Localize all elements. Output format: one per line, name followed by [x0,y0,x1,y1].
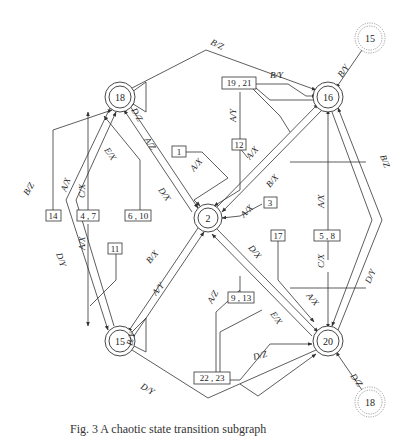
svg-text:E/X: E/X [102,145,119,163]
box-6-10: 6 , 10 [125,210,151,221]
svg-text:1: 1 [177,147,182,157]
svg-text:2: 2 [206,213,211,224]
svg-text:22 , 23: 22 , 23 [200,373,225,383]
svg-text:12: 12 [235,140,244,150]
svg-text:B/Z: B/Z [209,37,226,52]
svg-text:9 , 13: 9 , 13 [231,293,252,303]
svg-text:B/Z: B/Z [21,180,37,197]
box-1: 1 [172,146,186,157]
state-node-20[interactable]: 20 [313,326,343,356]
box-22-23: 22 , 23 [194,372,230,384]
svg-text:B/Y: B/Y [124,330,137,346]
svg-text:B/Y: B/Y [270,70,284,80]
svg-text:D/Z: D/Z [251,348,269,362]
svg-text:A/X: A/X [238,202,256,220]
svg-text:17: 17 [274,231,284,241]
box-19-21: 19 , 21 [222,77,256,89]
svg-text:3: 3 [268,198,273,208]
box-4-7: 4 , 7 [77,210,99,221]
svg-text:C/X: C/X [316,253,326,268]
svg-text:20: 20 [323,336,333,347]
svg-text:B/X: B/X [144,248,161,265]
box-17: 17 [271,230,285,241]
svg-text:11: 11 [111,244,120,254]
svg-text:5 , 8: 5 , 8 [319,231,335,241]
figure-caption: Fig. 3 A chaotic state transition subgra… [70,422,266,437]
boxes: 1 19 , 21 12 3 14 4 , 7 6 , 10 11 17 5 ,… [46,77,340,384]
svg-text:4 , 7: 4 , 7 [80,211,96,221]
svg-text:16: 16 [323,92,333,103]
box-5-8: 5 , 8 [314,230,340,241]
svg-text:A/Y: A/Y [149,280,166,298]
svg-text:B/Y: B/Y [335,62,351,79]
svg-text:A/Y: A/Y [228,108,238,123]
svg-text:19 , 21: 19 , 21 [227,78,252,88]
state-node-2[interactable]: 2 [194,204,222,232]
svg-text:B/X: B/X [264,172,281,189]
svg-text:A/X: A/X [316,194,326,209]
svg-text:18: 18 [365,397,375,408]
box-3: 3 [264,197,277,208]
state-node-16[interactable]: 16 [313,82,343,112]
svg-text:D/X: D/X [246,242,264,261]
svg-text:15: 15 [365,33,375,44]
external-node-15[interactable]: 15 [355,23,385,53]
svg-text:A/Z: A/Z [142,135,159,153]
svg-text:D/Y: D/Y [54,250,69,268]
box-9-13: 9 , 13 [228,292,254,303]
svg-text:E/X: E/X [268,309,285,327]
svg-text:6 , 10: 6 , 10 [128,211,149,221]
state-node-18[interactable]: 18 [105,82,135,112]
svg-text:C/X: C/X [77,183,87,198]
external-node-18[interactable]: 18 [355,387,385,417]
svg-text:D/Y: D/Y [362,267,378,286]
box-12: 12 [232,139,246,150]
svg-text:A/X: A/X [187,156,204,174]
svg-text:D/X: D/X [156,185,173,204]
svg-text:B/Z: B/Z [378,153,392,170]
box-11: 11 [108,243,122,254]
box-14: 14 [46,210,61,221]
svg-text:A/X: A/X [77,236,87,251]
svg-text:D/Y: D/Y [138,381,157,398]
svg-text:18: 18 [115,92,125,103]
svg-text:14: 14 [49,211,59,221]
svg-text:A/X: A/X [304,290,321,308]
svg-text:15: 15 [115,336,125,347]
svg-text:A/Z: A/Z [205,288,221,306]
